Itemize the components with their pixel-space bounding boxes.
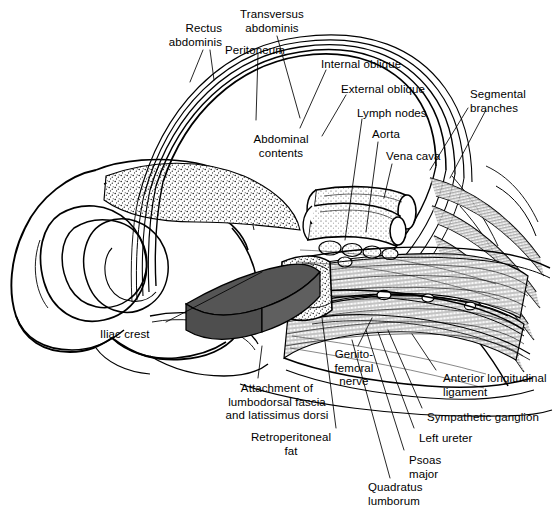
label-rectus-abdominis: Rectus abdominis: [169, 22, 222, 49]
label-abdominal-contents: Abdominal contents: [253, 133, 308, 160]
leader-anterior-long-ligament: [412, 334, 436, 370]
label-peritoneum: Peritoneum: [225, 44, 285, 58]
ischial-tuberosity: [96, 348, 150, 374]
label-attachment-lumbodorsal: Attachment of lumbodorsal fascia and lat…: [226, 382, 329, 423]
leader-left-ureter: [378, 332, 414, 428]
anatomical-figure: Rectus abdominisTransversus abdominisPer…: [0, 0, 553, 510]
acetabulum-inner: [62, 220, 147, 308]
label-internal-oblique: Internal oblique: [321, 58, 401, 72]
label-psoas-major: Psoas major: [409, 454, 441, 481]
leader-external-oblique: [322, 95, 346, 136]
label-aorta: Aorta: [372, 128, 400, 142]
label-lymph-nodes: Lymph nodes: [357, 107, 427, 121]
label-iliac-crest: Iliac crest: [100, 328, 150, 342]
label-transversus-abdominis: Transversus abdominis: [240, 8, 304, 35]
label-vena-cava: Vena cava: [386, 150, 441, 164]
label-segmental-branches: Segmental branches: [470, 88, 526, 115]
leader-peritoneum: [256, 54, 258, 120]
leader-attachment-lumbodorsal: [258, 346, 262, 378]
acetabulum-outer: [41, 206, 147, 321]
label-quadratus-lumborum: Quadratus lumborum: [368, 481, 423, 508]
label-anterior-long-ligament: Anterior longitudinal ligament: [443, 372, 547, 399]
great-vessels-group: [303, 187, 416, 246]
label-retroperitoneal-fat: Retroperitoneal fat: [251, 431, 331, 458]
label-external-oblique: External oblique: [341, 83, 425, 97]
leader-segmental-branches-b: [450, 110, 486, 178]
label-left-ureter: Left ureter: [419, 432, 473, 446]
label-sympathetic-ganglion: Sympathetic ganglion: [427, 411, 539, 425]
aorta-lumen: [390, 217, 406, 245]
leader-rectus-abdominis-a: [190, 50, 203, 82]
leader-internal-oblique: [300, 70, 326, 128]
label-genitofemoral-nerve: Genito- femoral nerve: [334, 348, 373, 389]
aorta-body: [308, 203, 400, 246]
